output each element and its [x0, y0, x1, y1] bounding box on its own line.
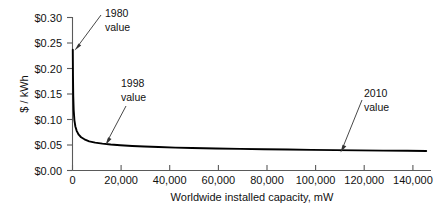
y-tick-label: $0.25: [34, 37, 62, 49]
annotation-1998-line1: 1998: [121, 77, 145, 89]
x-axis-tick-labels: 0 20,000 40,000 60,000 80,000 100,000 12…: [69, 174, 432, 186]
y-tick-label: $0.10: [34, 114, 62, 126]
x-tick-label: 140,000: [393, 174, 433, 186]
x-axis-title: Worldwide installed capacity, mW: [171, 191, 334, 203]
chart-figure: $0.30 $0.25 $0.20 $0.15 $0.10 $0.05 $0.0…: [0, 0, 441, 212]
annotation-1980-line2: value: [105, 21, 130, 33]
y-tick-label: $0.05: [34, 139, 62, 151]
y-tick-label: $0.15: [34, 88, 62, 100]
x-tick-label: 60,000: [202, 174, 236, 186]
x-tick-label: 20,000: [104, 174, 138, 186]
y-tick-label: $0.30: [34, 12, 62, 24]
y-tick-label: $0.00: [34, 165, 62, 177]
annotation-2010-line1: 2010: [364, 87, 388, 99]
y-tick-label: $0.20: [34, 63, 62, 75]
chart-svg: $0.30 $0.25 $0.20 $0.15 $0.10 $0.05 $0.0…: [0, 0, 441, 212]
x-tick-label: 0: [69, 174, 75, 186]
x-tick-label: 40,000: [153, 174, 187, 186]
y-axis-title: $ / kWh: [18, 75, 30, 112]
x-tick-label: 100,000: [296, 174, 336, 186]
annotation-1980-line1: 1980: [105, 7, 129, 19]
annotation-1998-line2: value: [121, 91, 146, 103]
x-tick-label: 120,000: [344, 174, 384, 186]
x-tick-label: 80,000: [250, 174, 284, 186]
annotation-2010-line2: value: [364, 101, 389, 113]
